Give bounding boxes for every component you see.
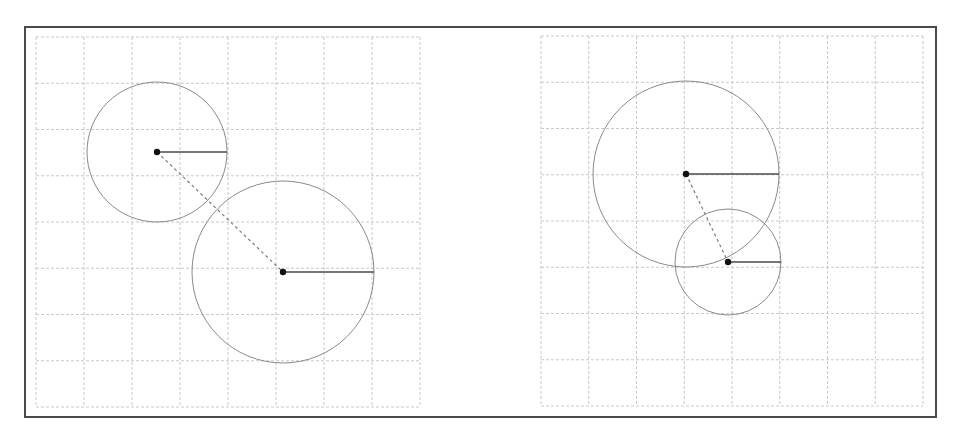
center-point — [725, 259, 731, 265]
panel-left-separated-circles — [36, 37, 420, 407]
center-point — [154, 149, 160, 155]
center-distance-line — [157, 152, 283, 272]
center-distance-line — [686, 174, 728, 262]
center-point — [683, 171, 689, 177]
grid — [36, 37, 420, 407]
circle-cB — [675, 209, 781, 315]
grid — [541, 36, 923, 406]
circle-cA — [593, 81, 779, 267]
circle-c1 — [87, 82, 227, 222]
circle-diagram — [0, 0, 967, 434]
panel-right-overlapping-circles — [541, 36, 923, 406]
center-point — [280, 269, 286, 275]
circle-c2 — [192, 181, 374, 363]
